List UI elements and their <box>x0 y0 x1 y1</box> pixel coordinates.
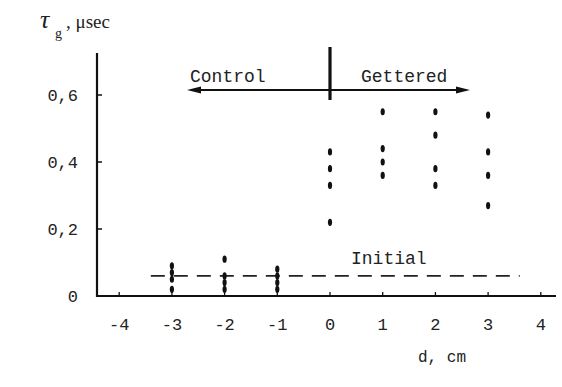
x-ticks: -4-3-2-101234 <box>109 292 546 335</box>
gettered-point <box>328 182 332 189</box>
gettered-point <box>328 165 332 172</box>
control-point <box>223 272 227 279</box>
gettered-point <box>433 182 437 189</box>
x-tick-label: 4 <box>536 316 546 335</box>
y-axis-symbol: τ <box>40 5 51 34</box>
x-tick-label: -4 <box>109 316 129 335</box>
y-axis-subscript: g <box>55 26 62 41</box>
x-tick-label: -3 <box>162 316 182 335</box>
gettered-point <box>433 132 437 139</box>
gettered-point <box>486 112 490 119</box>
chart: τ g , μsec 00,20,40,6 -4-3-2-101234 d, c… <box>0 0 562 387</box>
control-point <box>223 286 227 293</box>
gettered-point <box>433 108 437 115</box>
data-points <box>170 108 490 293</box>
y-tick-label: 0,4 <box>47 154 78 173</box>
control-point <box>275 286 279 293</box>
control-point <box>170 276 174 283</box>
control-point <box>170 286 174 293</box>
control-point <box>223 256 227 263</box>
initial-label: Initial <box>351 249 427 269</box>
control-point <box>170 269 174 276</box>
gettered-point <box>381 172 385 179</box>
y-tick-label: 0,6 <box>47 87 78 106</box>
x-tick-label: 0 <box>325 316 335 335</box>
gettered-label: Gettered <box>361 67 447 87</box>
gettered-point <box>381 158 385 165</box>
gettered-point <box>328 148 332 155</box>
y-tick-label: 0,2 <box>47 221 78 240</box>
gettered-point <box>433 165 437 172</box>
y-tick-label: 0 <box>68 288 78 307</box>
control-point <box>223 279 227 286</box>
region-annotation: Control Gettered <box>187 47 470 100</box>
arrow-left-icon <box>187 87 201 94</box>
control-point <box>170 262 174 269</box>
x-tick-label: -1 <box>267 316 287 335</box>
control-point <box>275 272 279 279</box>
x-axis-label: d, cm <box>418 349 466 367</box>
x-tick-label: 3 <box>483 316 493 335</box>
x-tick-label: 2 <box>430 316 440 335</box>
x-tick-label: 1 <box>378 316 388 335</box>
x-tick-label: -2 <box>214 316 234 335</box>
gettered-point <box>328 219 332 226</box>
gettered-point <box>381 108 385 115</box>
control-point <box>275 279 279 286</box>
gettered-point <box>486 148 490 155</box>
gettered-point <box>486 202 490 209</box>
y-ticks: 00,20,40,6 <box>47 87 102 307</box>
control-label: Control <box>190 67 266 87</box>
gettered-point <box>486 172 490 179</box>
y-axis-label: τ g , μsec <box>40 5 110 41</box>
control-point <box>275 266 279 273</box>
arrow-right-icon <box>456 87 470 94</box>
gettered-point <box>381 145 385 152</box>
y-axis-unit: , μsec <box>66 11 110 32</box>
